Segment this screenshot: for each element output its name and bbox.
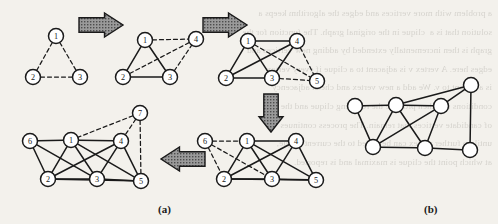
graph-node-label: 3	[168, 73, 172, 82]
graph-node-label: 4	[119, 137, 123, 146]
graph-node-2: 2	[116, 70, 131, 85]
graph-edge-solid	[379, 110, 434, 143]
graph-edge-dashed	[125, 119, 136, 135]
graph-node-label: 4	[294, 137, 298, 146]
graph-edge-dashed	[279, 78, 309, 80]
panel-b-caption: (b)	[424, 203, 437, 215]
graph-node-7: 7	[133, 106, 148, 121]
flow-arrow-left	[161, 147, 205, 171]
flow-arrow-right	[79, 13, 123, 37]
graph-node	[464, 78, 479, 93]
graph-node	[366, 140, 381, 155]
graph-edge-solid	[124, 148, 137, 175]
graph-node-4: 4	[189, 32, 204, 47]
graph-edge-solid	[78, 140, 113, 141]
graph-node-label: 5	[315, 77, 319, 86]
graph-edge-solid	[400, 111, 421, 142]
flow-arrow-right	[203, 13, 247, 37]
graph-edge-solid	[362, 105, 388, 106]
graph-node-5: 5	[309, 173, 324, 188]
graph-figure-canvas: 1231234123456142356147235	[0, 0, 498, 224]
graph-node-label: 4	[194, 35, 198, 44]
graph-node	[348, 99, 363, 114]
graph-node-label: 5	[139, 177, 143, 186]
graph-node-label: 6	[28, 137, 32, 146]
graph-node-2: 2	[41, 172, 56, 187]
graph-edge-dashed	[152, 39, 188, 40]
graph-node-4: 4	[290, 34, 305, 49]
graph-node-3: 3	[265, 71, 280, 86]
graph-node-4: 4	[289, 134, 304, 149]
graph-node-label: 1	[69, 136, 73, 145]
graph-edge-dashed	[208, 148, 220, 173]
graph-edge-dashed	[60, 42, 76, 70]
graph-edge-solid	[428, 113, 439, 141]
graph-node-label: 7	[138, 109, 142, 118]
graph-edge-solid	[101, 147, 117, 172]
graph-node-1: 1	[241, 34, 256, 49]
graph-node-4: 4	[114, 134, 129, 149]
graph-node-5: 5	[134, 174, 149, 189]
graph-node-label: 3	[270, 175, 274, 184]
graph-node-label: 3	[95, 175, 99, 184]
graph-node-1: 1	[49, 29, 64, 44]
graph-node	[434, 99, 449, 114]
graph-edge-solid	[299, 148, 312, 174]
graph-edge-solid	[432, 148, 462, 149]
graph-node-2: 2	[217, 172, 232, 187]
flow-arrow-down	[259, 94, 283, 132]
graph-node-1: 1	[138, 33, 153, 48]
graph-node-5: 5	[310, 74, 325, 89]
graph-node-label: 3	[270, 74, 274, 83]
graph-node-1: 1	[240, 134, 255, 149]
graph-edge-solid	[127, 46, 141, 70]
graph-node-2: 2	[219, 71, 234, 86]
graph-node-label: 3	[78, 73, 82, 82]
graph-node-label: 2	[46, 175, 50, 184]
graph-node-label: 1	[143, 36, 147, 45]
graph-edge-solid	[228, 147, 243, 172]
graph-node-3: 3	[90, 172, 105, 187]
graph-edge-solid	[403, 87, 464, 103]
graph-node-label: 1	[54, 32, 58, 41]
graph-node-label: 2	[31, 73, 35, 82]
graph-node-6: 6	[198, 134, 213, 149]
graph-edge-solid	[52, 146, 67, 172]
graph-edge-solid	[276, 147, 292, 172]
figure-root: a problem with more vertices and edges t…	[0, 0, 498, 224]
edges-layer	[33, 39, 471, 181]
graph-node	[418, 141, 433, 156]
graph-node	[389, 98, 404, 113]
graph-node-label: 5	[314, 176, 318, 185]
graph-edge-solid	[403, 105, 433, 106]
graph-edge-dashed	[300, 48, 313, 75]
graph-edge-dashed	[254, 45, 310, 77]
graph-edge-solid	[470, 92, 471, 142]
graph-edge-dashed	[130, 42, 190, 73]
graph-edge-solid	[358, 113, 370, 140]
graph-edge-dashed	[140, 120, 141, 173]
graph-node-label: 6	[203, 137, 207, 146]
graph-node-1: 1	[64, 133, 79, 148]
graph-edge-solid	[37, 140, 63, 141]
graph-node-label: 1	[245, 137, 249, 146]
graph-edge-solid	[380, 147, 417, 148]
graph-edge-dashed	[37, 43, 53, 71]
panel-a-caption: (a)	[158, 203, 171, 215]
graph-node-label: 2	[224, 74, 228, 83]
graph-node-3: 3	[73, 70, 88, 85]
graph-node-label: 2	[121, 73, 125, 82]
graph-node-2: 2	[26, 70, 41, 85]
graph-node-label: 1	[246, 37, 250, 46]
graph-node-3: 3	[265, 172, 280, 187]
graph-node-label: 4	[295, 37, 299, 46]
graph-edge-solid	[33, 148, 45, 172]
graph-node-label: 2	[222, 175, 226, 184]
graph-node-3: 3	[163, 70, 178, 85]
graph-node	[463, 143, 478, 158]
graph-edge-solid	[230, 47, 244, 71]
graph-node-6: 6	[23, 134, 38, 149]
